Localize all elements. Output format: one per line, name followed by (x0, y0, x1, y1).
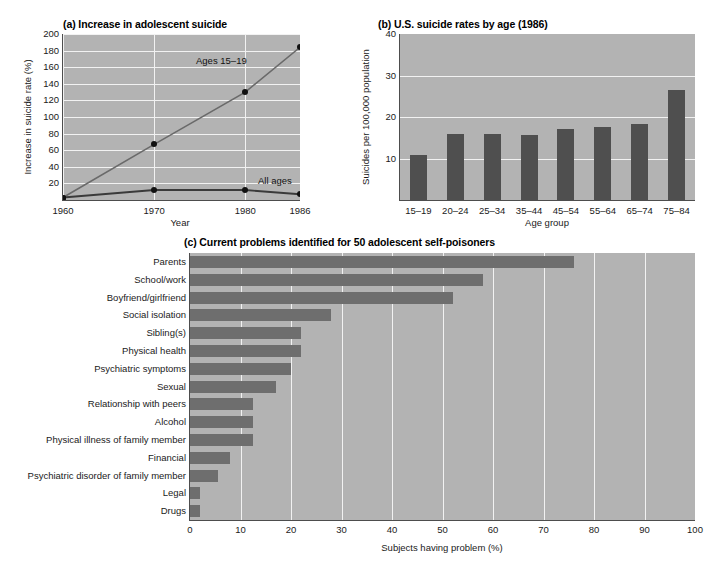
panel-c-category-label: Social isolation (2, 309, 186, 320)
panel-a-series-label-all-ages: All ages (258, 175, 292, 186)
panel-c-category-label: Boyfriend/girlfriend (2, 292, 186, 303)
panel-c-bar (190, 292, 453, 304)
panel-c-x-tick: 0 (168, 524, 212, 535)
panel-c-category-label: Drugs (2, 505, 186, 516)
panel-c-bar (190, 327, 301, 339)
panel-b-y-axis-line (399, 34, 400, 201)
panel-a-series-label-ages-15-19: Ages 15–19 (196, 55, 247, 66)
panel-c-gridline-v (645, 253, 646, 520)
panel-c-bar (190, 274, 483, 286)
panel-c-bar (190, 256, 574, 268)
panel-c-bar (190, 398, 253, 410)
panel-c-x-tick: 70 (522, 524, 566, 535)
panel-a-y-tick: 100 (23, 111, 59, 122)
panel-a-y-tick: 200 (23, 28, 59, 39)
panel-a-x-tick: 1970 (132, 205, 176, 216)
panel-c-gridline-v (493, 253, 494, 520)
panel-c-category-label: Psychiatric symptoms (2, 363, 186, 374)
panel-a-x-tick: 1960 (41, 205, 85, 216)
panel-b-y-tick: 20 (364, 111, 396, 122)
panel-c-x-tick: 20 (269, 524, 313, 535)
panel-a-x-axis-line (62, 200, 300, 201)
panel-c-bar (190, 505, 200, 517)
panel-a-x-tick: 1980 (223, 205, 267, 216)
panel-b-y-tick: 10 (364, 153, 396, 164)
panel-a-y-tick: 160 (23, 61, 59, 72)
panel-b-gridline-h (400, 159, 695, 160)
panel-c-bar (190, 487, 200, 499)
panel-a-title: (a) Increase in adolescent suicide (63, 18, 227, 30)
panel-b-plot-area (400, 34, 695, 200)
panel-c-x-tick: 60 (471, 524, 515, 535)
panel-a-y-tick: 60 (23, 144, 59, 155)
panel-a-x-tick: 1986 (278, 205, 322, 216)
panel-c-bar (190, 345, 301, 357)
panel-c-bar (190, 363, 291, 375)
panel-c-x-tick: 50 (421, 524, 465, 535)
panel-c-plot-area (190, 253, 695, 520)
panel-c-x-tick: 40 (370, 524, 414, 535)
panel-c-category-label: Alcohol (2, 416, 186, 427)
panel-a-y-tick: 80 (23, 128, 59, 139)
panel-c-bar (190, 452, 230, 464)
panel-c-bar (190, 381, 276, 393)
panel-b-bar (668, 90, 685, 200)
panel-c-x-tick: 10 (219, 524, 263, 535)
panel-b-x-tick: 75–84 (655, 205, 699, 216)
panel-c-bar (190, 416, 253, 428)
panel-a-x-axis-title: Year (120, 217, 240, 228)
panel-c-y-axis-line (189, 253, 190, 521)
panel-c-gridline-v (594, 253, 595, 520)
figure-canvas: (a) Increase in adolescent suicide Incre… (0, 0, 724, 565)
panel-b-bar (410, 155, 427, 200)
panel-c-bar (190, 434, 253, 446)
panel-b-bar (631, 124, 648, 200)
panel-c-bar (190, 309, 331, 321)
panel-b-gridline-h (400, 76, 695, 77)
panel-c-x-tick: 100 (673, 524, 717, 535)
panel-c-x-axis-title: Subjects having problem (%) (372, 542, 512, 553)
panel-c-x-tick: 80 (572, 524, 616, 535)
panel-a-marker-ages-15-19 (297, 44, 300, 50)
panel-c-x-tick: 30 (320, 524, 364, 535)
panel-c-x-tick: 90 (623, 524, 667, 535)
panel-a-y-tick: 140 (23, 78, 59, 89)
panel-b-y-tick: 30 (364, 70, 396, 81)
panel-b-gridline-h (400, 117, 695, 118)
panel-c-title: (c) Current problems identified for 50 a… (184, 236, 495, 248)
panel-a-y-tick: 120 (23, 94, 59, 105)
panel-c-category-label: Sexual (2, 381, 186, 392)
panel-b-title: (b) U.S. suicide rates by age (1986) (378, 18, 548, 30)
panel-a-line-all-ages (63, 190, 300, 197)
panel-b-y-tick: 40 (364, 28, 396, 39)
panel-b-bar (594, 127, 611, 200)
panel-b-bar (484, 134, 501, 200)
panel-c-category-label: School/work (2, 274, 186, 285)
panel-b-bar (447, 134, 464, 200)
panel-c-category-label: Legal (2, 487, 186, 498)
panel-c-category-label: Physical illness of family member (2, 434, 186, 445)
panel-b-x-axis-title: Age group (487, 217, 607, 228)
panel-c-x-axis-line (189, 520, 695, 521)
panel-c-category-label: Financial (2, 452, 186, 463)
panel-a-y-tick: 180 (23, 45, 59, 56)
panel-c-category-label: Physical health (2, 345, 186, 356)
panel-a-marker-all-ages (297, 191, 300, 197)
panel-c-bar (190, 470, 218, 482)
panel-a-y-tick: 20 (23, 177, 59, 188)
panel-a-y-axis-line (62, 34, 63, 201)
panel-b-x-axis-line (399, 200, 695, 201)
panel-c-category-label: Parents (2, 256, 186, 267)
panel-b-bar (557, 129, 574, 200)
panel-c-category-label: Psychiatric disorder of family member (2, 470, 186, 481)
panel-c-gridline-v (544, 253, 545, 520)
panel-c-category-label: Relationship with peers (2, 398, 186, 409)
panel-b-bar (521, 135, 538, 200)
panel-a-y-tick: 40 (23, 161, 59, 172)
panel-c-category-label: Sibling(s) (2, 327, 186, 338)
